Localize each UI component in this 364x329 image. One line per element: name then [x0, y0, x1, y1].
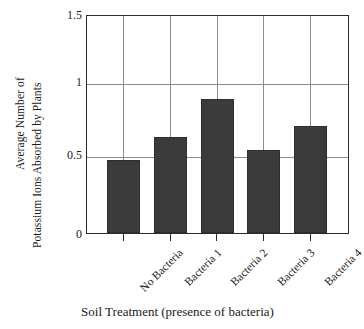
x-label-bacteria-4: Bacteria 4	[323, 247, 364, 288]
x-tick-5	[310, 234, 311, 241]
y-axis-title-line-2: Potassium Ions Absorbed by Plants	[32, 82, 44, 248]
x-tick-3	[216, 234, 217, 241]
x-tick-2	[170, 234, 171, 241]
y-axis-tick-labels: 1.5 1 0.5 0	[44, 0, 82, 329]
plot-area	[86, 15, 349, 234]
x-label-bacteria-3: Bacteria 3	[276, 247, 317, 288]
y-tick-label-1_5: 1.5	[44, 9, 82, 21]
y-tick-label-0: 0	[44, 228, 82, 240]
x-tick-4	[263, 234, 264, 241]
x-label-bacteria-2: Bacteria 2	[229, 247, 270, 288]
x-label-no-bacteria: No Bacteria	[138, 247, 185, 294]
bar-bacteria-3[interactable]	[247, 150, 280, 233]
bar-bacteria-2[interactable]	[201, 99, 234, 233]
bar-no-bacteria[interactable]	[107, 160, 140, 233]
y-axis-title-line-1: Average Number of	[15, 77, 27, 170]
x-axis-title: Soil Treatment (presence of bacteria)	[0, 305, 355, 318]
y-tick-label-1: 1	[44, 76, 82, 88]
x-tick-1	[123, 234, 124, 241]
bar-bacteria-4[interactable]	[294, 126, 327, 233]
x-label-bacteria-1: Bacteria 1	[183, 247, 224, 288]
bar-bacteria-1[interactable]	[154, 137, 187, 233]
y-tick-label-0_5: 0.5	[44, 149, 82, 161]
